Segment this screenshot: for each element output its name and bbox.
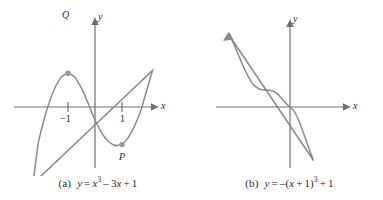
eq-b-op: +	[320, 177, 326, 189]
caption-equation-a: y=x3–3x+1	[77, 177, 137, 189]
caption-equation-b: y=–(x+1)3+1	[265, 177, 334, 189]
x-axis-label-a: x	[161, 101, 165, 111]
y-axis-label-a: y	[98, 12, 102, 22]
eq-b-lhs: y	[265, 177, 270, 189]
eq-b-variable: x	[289, 177, 294, 189]
point-label-q: Q	[62, 10, 69, 20]
y-axis-label-b: y	[293, 14, 297, 24]
eq-b-inner-op: +	[296, 177, 302, 189]
eq-a-op2: +	[123, 177, 129, 189]
eq-b-exponent: 3	[314, 175, 318, 184]
caption-tag-a: (a)	[59, 177, 72, 189]
eq-a-term1-exponent: 3	[97, 175, 101, 184]
curve-cubic-b	[230, 37, 314, 161]
eq-a-term2-variable: x	[116, 177, 121, 189]
panel-a: Q P −1 1 x y (a)y=x3–3x+1	[0, 0, 196, 200]
curve-cubic-a	[33, 71, 153, 177]
x-tick-label-one: 1	[120, 114, 125, 124]
eq-b-tail: 1	[328, 177, 334, 189]
eq-a-equals: =	[84, 177, 90, 189]
point-p-marker	[119, 142, 124, 147]
eq-b-equals: =	[271, 177, 277, 189]
caption-a: (a)y=x3–3x+1	[0, 176, 196, 190]
figure-container: Q P −1 1 x y (a)y=x3–3x+1	[0, 0, 383, 200]
plot-a	[0, 0, 196, 176]
panel-b: x y (b)y=–(x+1)3+1	[196, 0, 383, 200]
caption-tag-b: (b)	[245, 177, 258, 189]
point-q-marker	[65, 71, 70, 76]
x-tick-label-minus-one: −1	[60, 114, 71, 124]
point-label-p: P	[119, 152, 125, 162]
eq-a-lhs: y	[77, 177, 82, 189]
eq-a-term3: 1	[132, 177, 138, 189]
x-axis-label-b: x	[353, 101, 357, 111]
caption-b: (b)y=–(x+1)3+1	[196, 176, 383, 190]
plot-b	[196, 0, 383, 176]
eq-a-op1: –	[103, 177, 109, 189]
